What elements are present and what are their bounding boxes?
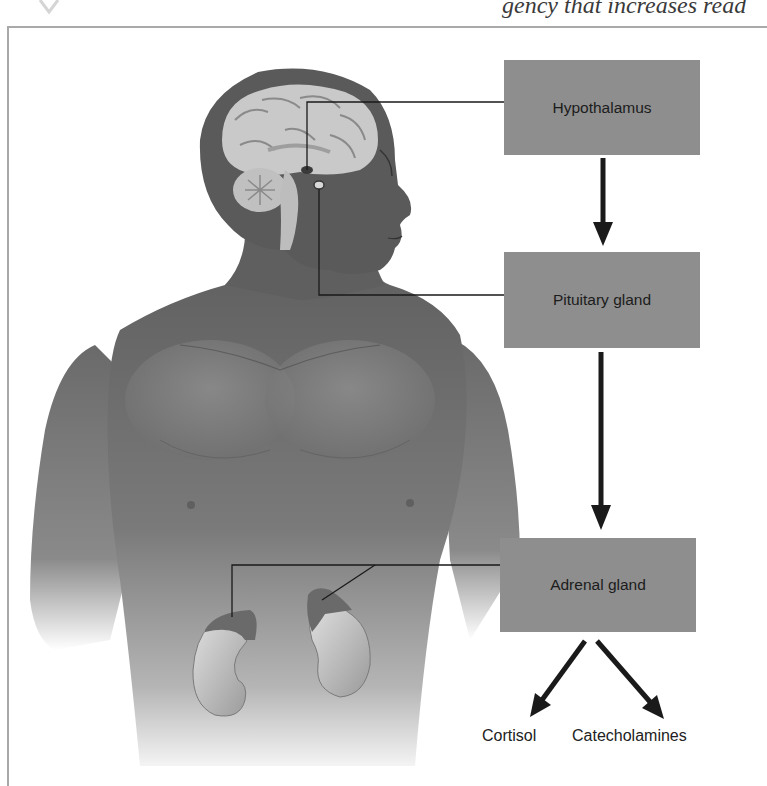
pituitary-marker	[314, 181, 324, 189]
node-label: Pituitary gland	[553, 291, 651, 309]
output-cortisol: Cortisol	[482, 727, 536, 745]
arrow-adrenal-to-catecholamines	[597, 641, 664, 719]
node-label: Hypothalamus	[552, 99, 651, 117]
node-label: Adrenal gland	[550, 576, 646, 594]
node-adrenal-gland: Adrenal gland	[500, 538, 696, 632]
arrow-hypothalamus-to-pituitary	[593, 158, 613, 246]
arrow-adrenal-to-cortisol	[530, 641, 585, 717]
node-hypothalamus: Hypothalamus	[504, 60, 700, 155]
arrow-pituitary-to-adrenal	[591, 352, 611, 530]
output-catecholamines: Catecholamines	[572, 727, 687, 745]
node-pituitary-gland: Pituitary gland	[504, 252, 700, 348]
